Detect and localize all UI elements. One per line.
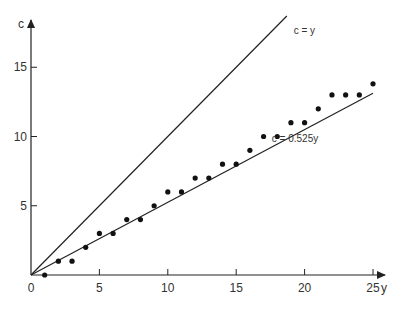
data-point	[152, 203, 157, 208]
line-annotation: c = y	[294, 25, 315, 36]
fit-line	[31, 16, 287, 275]
data-point	[165, 189, 170, 194]
data-point	[206, 175, 211, 180]
data-point	[261, 134, 266, 139]
fit-lines	[31, 16, 373, 275]
data-point	[193, 175, 198, 180]
y-tick-label: 5	[20, 199, 27, 213]
data-point	[179, 189, 184, 194]
data-point	[357, 92, 362, 97]
chart: 051015202551015ycc = yc = 0.525y	[0, 0, 413, 310]
data-point	[302, 120, 307, 125]
x-tick-label: 20	[298, 281, 312, 295]
data-point	[370, 81, 375, 86]
line-annotation: c = 0.525y	[272, 133, 318, 144]
x-tick-label: 10	[161, 281, 175, 295]
data-point	[220, 162, 225, 167]
data-point	[83, 245, 88, 250]
data-point	[110, 231, 115, 236]
y-tick-label: 15	[14, 60, 28, 74]
data-point	[42, 272, 47, 277]
y-axis-label: c	[18, 17, 24, 31]
x-tick-label: 5	[96, 281, 103, 295]
data-point	[69, 259, 74, 264]
y-tick-label: 10	[14, 130, 28, 144]
data-points	[42, 81, 376, 277]
data-point	[56, 259, 61, 264]
labels: 051015202551015ycc = yc = 0.525y	[14, 17, 387, 295]
data-point	[138, 217, 143, 222]
x-tick-label: 25	[366, 281, 380, 295]
x-tick-label: 0	[28, 281, 35, 295]
axes	[31, 20, 385, 275]
data-point	[97, 231, 102, 236]
fit-line	[31, 93, 373, 275]
data-point	[247, 148, 252, 153]
x-axis-label: y	[381, 281, 387, 295]
data-point	[288, 120, 293, 125]
data-point	[124, 217, 129, 222]
data-point	[329, 92, 334, 97]
data-point	[316, 106, 321, 111]
data-point	[343, 92, 348, 97]
data-point	[234, 162, 239, 167]
x-tick-label: 15	[230, 281, 244, 295]
